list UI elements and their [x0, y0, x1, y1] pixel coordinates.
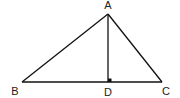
segment-ab: [22, 14, 108, 82]
segment-ac: [108, 14, 162, 82]
label-a: A: [104, 0, 112, 11]
triangle-diagram: A B D C: [0, 0, 180, 98]
label-b: B: [11, 85, 18, 97]
right-angle-marker: [108, 79, 112, 83]
label-c: C: [162, 85, 170, 97]
label-d: D: [104, 86, 112, 98]
